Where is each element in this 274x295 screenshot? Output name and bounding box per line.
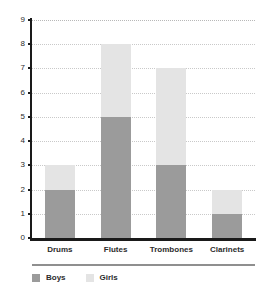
bar-segment[interactable] — [212, 190, 242, 214]
y-axis-tick-label: 6 — [21, 89, 25, 97]
y-axis-tick-label: 7 — [21, 64, 25, 72]
y-axis-tick-label: 4 — [21, 137, 25, 145]
bar-group[interactable] — [101, 44, 131, 238]
stacked-bar-chart: 0123456789 DrumsFlutesTrombonesClarinets… — [0, 0, 274, 295]
bar-segment[interactable] — [101, 44, 131, 117]
plot-inner: 0123456789 DrumsFlutesTrombonesClarinets — [32, 20, 255, 238]
legend-item-label: Boys — [46, 274, 66, 282]
legend-item-label: Girls — [100, 274, 118, 282]
bar-segment[interactable] — [156, 68, 186, 165]
legend-swatch-icon — [86, 274, 94, 282]
x-axis-tick-label: Trombones — [150, 245, 193, 254]
y-axis-tick-label: 1 — [21, 210, 25, 218]
bar-group[interactable] — [45, 165, 75, 238]
bars-layer — [32, 20, 255, 238]
bar-segment[interactable] — [45, 190, 75, 238]
y-axis-tick-label: 3 — [21, 161, 25, 169]
x-axis-tick-label: Drums — [47, 245, 72, 254]
bar-segment[interactable] — [156, 165, 186, 238]
legend-item[interactable]: Girls — [86, 274, 118, 282]
y-axis-tick-label: 5 — [21, 113, 25, 121]
legend-divider — [32, 264, 255, 266]
y-axis-tick-label: 0 — [21, 234, 25, 242]
bar-segment[interactable] — [101, 117, 131, 238]
bar-group[interactable] — [212, 190, 242, 238]
bar-segment[interactable] — [45, 165, 75, 189]
chart-legend: BoysGirls — [32, 274, 118, 282]
x-axis-tick-label: Clarinets — [210, 245, 244, 254]
legend-item[interactable]: Boys — [32, 274, 66, 282]
plot-area: 0123456789 DrumsFlutesTrombonesClarinets — [32, 20, 255, 238]
x-axis-tick-label: Flutes — [104, 245, 128, 254]
bar-group[interactable] — [156, 68, 186, 238]
y-axis-tick-label: 9 — [21, 16, 25, 24]
y-axis-tick-label: 2 — [21, 186, 25, 194]
y-axis-tick-label: 8 — [21, 40, 25, 48]
bar-segment[interactable] — [212, 214, 242, 238]
legend-swatch-icon — [32, 274, 40, 282]
x-axis-line — [30, 238, 256, 241]
